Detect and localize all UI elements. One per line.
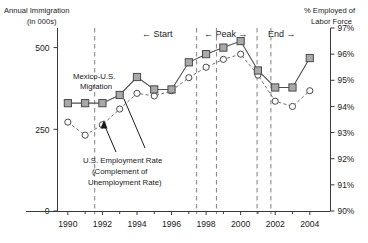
data-point-2001 — [254, 67, 261, 74]
data-point-1994 — [134, 90, 140, 96]
data-point-1990 — [64, 100, 71, 107]
x-tick-label-2002: 2002 — [266, 219, 285, 229]
immigration-employment-chart: Annual Immigration (in 000s) % Employed … — [0, 0, 368, 243]
data-point-1995 — [151, 86, 158, 93]
x-axis-ticks: 19901992199419961998200020022004 — [58, 211, 319, 229]
right-tick-label-93: 93% — [338, 128, 355, 138]
data-point-1995 — [151, 93, 157, 99]
x-tick-label-1996: 1996 — [162, 219, 181, 229]
data-point-2003 — [289, 84, 296, 91]
data-point-1998 — [203, 64, 209, 70]
left-axis-title-line1: Annual Immigration — [4, 6, 69, 15]
employment-label-pointer-arrow — [101, 120, 117, 152]
data-point-1994 — [133, 73, 140, 80]
x-tick-label-2000: 2000 — [231, 219, 250, 229]
series-label-employment-line1: U.S. Employment Rate — [83, 156, 162, 165]
data-point-1992 — [99, 100, 106, 107]
data-point-2002 — [272, 84, 279, 91]
data-point-1999 — [220, 44, 227, 51]
series-label-employment-line2: (Complement of — [92, 167, 148, 176]
data-point-2004 — [307, 88, 313, 94]
data-point-1996 — [168, 86, 175, 93]
data-point-1993 — [117, 106, 123, 112]
phase-start-label: ← Start — [142, 29, 173, 39]
data-point-2000 — [238, 51, 244, 57]
series-label-migration-line2: Migration — [80, 82, 112, 91]
right-axis-title-line1: % Employed of — [304, 6, 356, 15]
right-tick-label-97: 97% — [338, 23, 355, 33]
right-axis-ticks: 90%91%92%93%94%95%96%97% — [331, 23, 355, 216]
x-tick-label-2004: 2004 — [300, 219, 319, 229]
chart-svg: Annual Immigration (in 000s) % Employed … — [0, 0, 368, 243]
data-point-1998 — [202, 51, 209, 58]
data-point-2002 — [272, 98, 278, 104]
data-point-2003 — [289, 103, 295, 109]
data-point-2004 — [306, 54, 313, 61]
right-tick-label-96: 96% — [338, 49, 355, 59]
right-tick-label-90: 90% — [338, 206, 355, 216]
x-tick-label-1990: 1990 — [58, 219, 77, 229]
phase-end-label: End → — [268, 29, 296, 39]
data-point-1993 — [116, 91, 123, 98]
data-point-1990 — [65, 119, 71, 125]
left-tick-label-250: 250 — [35, 125, 50, 135]
data-point-1997 — [185, 59, 192, 66]
left-tick-label-500: 500 — [35, 43, 50, 53]
x-tick-label-1992: 1992 — [93, 219, 112, 229]
right-tick-label-92: 92% — [338, 154, 355, 164]
left-axis-title-line2: (in 000s) — [27, 17, 57, 26]
migration-label-pointer-line — [124, 99, 145, 148]
data-point-1991 — [82, 132, 88, 138]
data-point-1991 — [82, 100, 89, 107]
x-tick-label-1994: 1994 — [127, 219, 146, 229]
left-axis-ticks: 0250500 — [35, 43, 57, 216]
data-point-1999 — [220, 56, 226, 62]
data-point-1997 — [186, 75, 192, 81]
x-tick-label-1998: 1998 — [197, 219, 216, 229]
series-label-employment-line3: Unemployment Rate) — [88, 178, 162, 187]
right-tick-label-91: 91% — [338, 180, 355, 190]
right-tick-label-95: 95% — [338, 75, 355, 85]
right-tick-label-94: 94% — [338, 102, 355, 112]
data-point-2000 — [237, 37, 244, 44]
series-label-migration-line1: Mexico-U.S. — [73, 72, 115, 81]
